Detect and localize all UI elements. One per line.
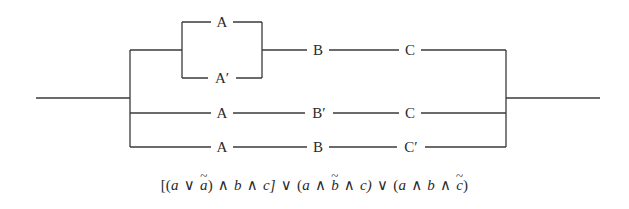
formula-and2: ∧ xyxy=(247,177,258,193)
formula-b1: b xyxy=(234,177,242,193)
formula-or3: ∨ xyxy=(377,177,388,193)
formula-or2: ∨ xyxy=(281,177,292,193)
formula-c1: c] xyxy=(263,177,276,193)
switch-b-row1: B xyxy=(313,42,323,58)
switch-c-row1: C xyxy=(405,42,415,58)
formula-b-tilde: b xyxy=(331,177,339,194)
switch-a-row2: A xyxy=(217,105,228,121)
formula-a1: a xyxy=(171,177,179,193)
switch-c-row2: C xyxy=(405,105,415,121)
formula-and5: ∧ xyxy=(411,177,422,193)
boolean-formula: [(a∨a)∧b∧c]∨(a∧b∧c)∨(a∧b∧c) xyxy=(0,176,629,194)
formula-and4: ∧ xyxy=(344,177,355,193)
formula-and6: ∧ xyxy=(440,177,451,193)
switch-a-top: A xyxy=(217,14,228,30)
switch-a-prime: A′ xyxy=(215,70,229,86)
formula-close-paren-1: ) xyxy=(208,177,213,193)
formula-a2: a xyxy=(302,177,310,193)
switch-b-row3: B xyxy=(313,139,323,155)
switch-a-row3: A xyxy=(217,139,228,155)
formula-a3: a xyxy=(398,177,406,193)
formula-b3: b xyxy=(427,177,435,193)
switch-c-prime-row3: C′ xyxy=(404,139,417,155)
formula-or1: ∨ xyxy=(184,177,195,193)
formula-c-tilde: c xyxy=(456,177,463,194)
formula-a-tilde: a xyxy=(200,177,208,194)
formula-c2: c) xyxy=(360,177,372,193)
switch-b-prime-row2: B′ xyxy=(312,105,325,121)
formula-close-paren-3: ) xyxy=(463,177,468,193)
formula-and1: ∧ xyxy=(218,177,229,193)
formula-and3: ∧ xyxy=(315,177,326,193)
formula-open-bracket: [( xyxy=(161,177,171,193)
